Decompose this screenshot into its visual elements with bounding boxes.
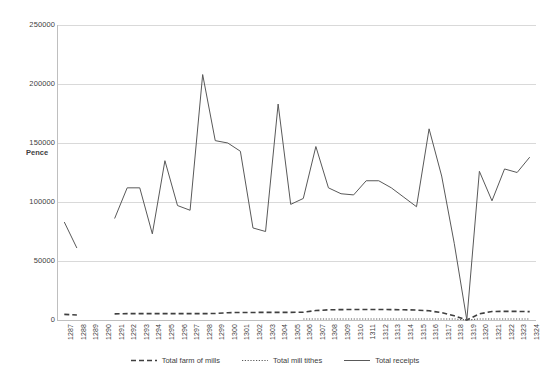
x-tick-label: 1303 — [269, 324, 276, 340]
x-tick-label: 1312 — [382, 324, 389, 340]
x-tick-label: 1316 — [432, 324, 439, 340]
legend-swatch-solid-icon — [344, 357, 370, 364]
x-tick-label: 1306 — [306, 324, 313, 340]
x-tick-label: 1319 — [470, 324, 477, 340]
x-tick-label: 1314 — [407, 324, 414, 340]
x-tick-label: 1302 — [256, 324, 263, 340]
x-tick-label: 1287 — [67, 324, 74, 340]
legend-swatch-dotted-icon — [242, 357, 268, 364]
chart-legend: Total farm of millsTotal mill tithesTota… — [0, 352, 550, 368]
x-tick-label: 1291 — [118, 324, 125, 340]
x-tick-label: 1321 — [495, 324, 502, 340]
legend-label: Total mill tithes — [273, 356, 322, 365]
x-tick-label: 1309 — [344, 324, 351, 340]
x-tick-label: 1308 — [331, 324, 338, 340]
x-tick-label: 1294 — [155, 324, 162, 340]
x-tick-label: 1311 — [369, 324, 376, 339]
x-tick-label: 1288 — [80, 324, 87, 340]
x-tick-label: 1295 — [168, 324, 175, 340]
x-tick-label: 1296 — [181, 324, 188, 340]
x-tick-label: 1322 — [508, 324, 515, 340]
x-tick-label: 1301 — [243, 324, 250, 340]
x-tick-label: 1313 — [394, 324, 401, 340]
x-tick-label: 1305 — [294, 324, 301, 340]
series-dotted — [303, 319, 529, 320]
series-layer — [0, 0, 550, 378]
legend-swatch-dashed-icon — [131, 357, 157, 364]
series-solid — [64, 222, 77, 248]
legend-label: Total farm of mills — [162, 356, 220, 365]
x-tick-label: 1289 — [92, 324, 99, 340]
x-tick-label: 1323 — [520, 324, 527, 340]
x-tick-label: 1307 — [319, 324, 326, 340]
legend-item[interactable]: Total mill tithes — [242, 356, 322, 365]
x-tick-label: 1293 — [143, 324, 150, 340]
x-tick-label: 1320 — [482, 324, 489, 340]
x-tick-label: 1304 — [281, 324, 288, 340]
legend-item[interactable]: Total receipts — [344, 356, 419, 365]
legend-label: Total receipts — [375, 356, 419, 365]
series-dashed — [64, 314, 77, 315]
x-tick-label: 1292 — [130, 324, 137, 340]
series-solid — [115, 75, 530, 320]
x-tick-label: 1290 — [105, 324, 112, 340]
chart-container: 250000200000150000100000500000 Pence 128… — [0, 0, 550, 378]
x-tick-label: 1318 — [457, 324, 464, 340]
x-tick-label: 1297 — [193, 324, 200, 340]
x-tick-label: 1299 — [218, 324, 225, 340]
x-tick-label: 1324 — [533, 324, 540, 340]
x-tick-label: 1298 — [206, 324, 213, 340]
x-tick-label: 1300 — [231, 324, 238, 340]
x-tick-label: 1315 — [420, 324, 427, 340]
x-tick-label: 1317 — [445, 324, 452, 340]
x-tick-label: 1310 — [357, 324, 364, 340]
legend-item[interactable]: Total farm of mills — [131, 356, 220, 365]
